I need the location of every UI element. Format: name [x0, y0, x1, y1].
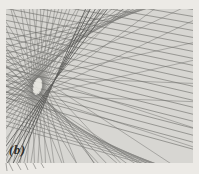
edge-stub — [6, 163, 7, 171]
scanned-figure-page: (b) — [0, 0, 199, 174]
edge-stub — [33, 163, 36, 169]
envelope-line-family-plot — [0, 0, 199, 174]
subfigure-label: (b) — [9, 142, 26, 158]
edge-stub — [9, 163, 13, 171]
edge-stub — [25, 163, 28, 170]
edge-stub — [41, 163, 44, 168]
bottom-edge-line-stubs — [6, 163, 44, 171]
edge-stub — [17, 163, 21, 170]
